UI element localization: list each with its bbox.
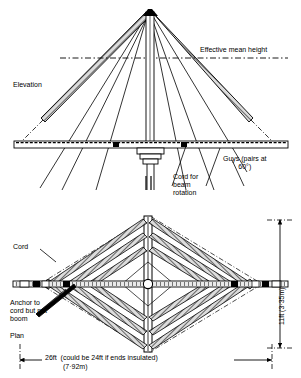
plan-view bbox=[13, 216, 288, 352]
anchor-note-label: Anchor to cord but not boom bbox=[10, 299, 47, 323]
plan-rotation-hub bbox=[143, 279, 152, 288]
elevation-view-label: Elevation bbox=[13, 81, 42, 89]
width-dimension-metric: (7·92m) bbox=[63, 363, 88, 371]
figure-canvas: Effective mean height Elevation Guys (pa… bbox=[0, 0, 301, 378]
cord-for-beam-rotation-label: Cord for beam rotation bbox=[173, 173, 198, 197]
width-dimension-imperial: 26ft (could be 24ft if ends insulated) bbox=[45, 354, 158, 362]
elevation-sloping-element-right bbox=[152, 12, 253, 122]
elevation-sloping-element-left bbox=[41, 12, 150, 122]
guys-label: Guys (pairs at 60°) bbox=[223, 155, 267, 171]
cord-label: Cord bbox=[13, 243, 28, 251]
elevation-horizontal-boom bbox=[14, 141, 288, 148]
plan-boom-lower-left bbox=[44, 279, 147, 349]
effective-mean-height-label: Effective mean height bbox=[200, 46, 267, 54]
plan-view-label: Plan bbox=[10, 332, 24, 340]
plan-boom-upper-left bbox=[44, 219, 147, 289]
plan-boom-lower-right bbox=[149, 279, 254, 349]
rotation-bearing-assembly bbox=[137, 148, 164, 164]
mast bbox=[146, 12, 154, 146]
height-dimension-label: 11ft (3·35m) bbox=[278, 287, 286, 325]
plan-boom-upper-right bbox=[149, 219, 254, 289]
